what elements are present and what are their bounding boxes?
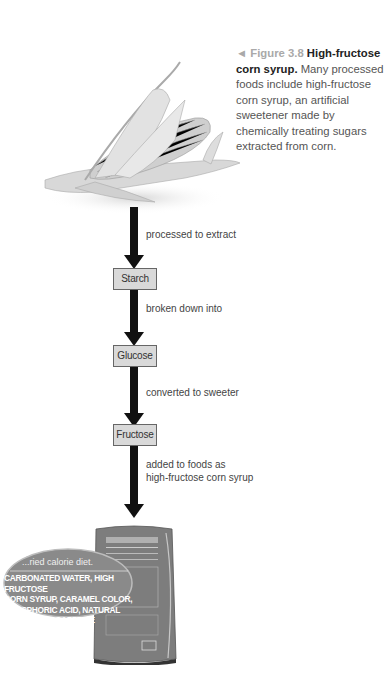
step-label-added-line1: added to foods as xyxy=(146,458,226,471)
step-label-added-line2: high-fructose corn syrup xyxy=(146,471,253,484)
ingredient-line: PHOSPHORIC ACID, NATURAL xyxy=(4,605,144,616)
figure-caption: ◄ Figure 3.8 High-fructose corn syrup. M… xyxy=(236,46,386,155)
flow-arrow-shaft xyxy=(130,367,138,415)
flow-arrow-shaft xyxy=(130,290,138,334)
step-label-converted: converted to sweeter xyxy=(146,386,239,399)
step-label-broken-down: broken down into xyxy=(146,302,222,315)
figure-body: Many processed foods include high-fructo… xyxy=(236,63,384,153)
box-fructose: Fructose xyxy=(113,424,157,446)
ingredient-list: CARBONATED WATER, HIGH FRUCTOSE CORN SYR… xyxy=(4,573,144,626)
flow-arrow-head-icon xyxy=(124,255,144,269)
ingredient-line: CARBONATED WATER, HIGH FRUCTOSE xyxy=(4,573,144,594)
ingredient-line: CORN SYRUP, CARAMEL COLOR, xyxy=(4,594,144,605)
flow-arrow-shaft xyxy=(130,207,138,255)
flow-arrow-shaft xyxy=(130,446,138,506)
figure-marker-icon: ◄ xyxy=(236,47,247,59)
figure-label: Figure 3.8 xyxy=(250,47,303,59)
ingredient-line: FLAVORS, CAFFEINE xyxy=(4,615,144,626)
flow-arrow-head-icon xyxy=(124,504,144,518)
box-glucose: Glucose xyxy=(113,345,157,367)
callout-header: ...ried calorie diet. xyxy=(22,557,93,567)
flow-arrow-head-icon xyxy=(124,332,144,346)
box-starch: Starch xyxy=(113,268,157,290)
corn-cob-illustration xyxy=(35,60,245,220)
step-label-extract: processed to extract xyxy=(146,228,236,241)
